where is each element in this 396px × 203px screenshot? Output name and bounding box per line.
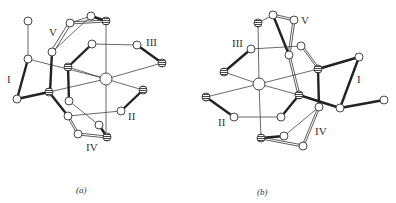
atom-open xyxy=(247,45,255,53)
atom-hatched xyxy=(220,68,228,76)
atom-open xyxy=(66,19,74,27)
label-b-IV: IV xyxy=(315,125,327,137)
atom-hatched xyxy=(139,86,147,94)
atom-open xyxy=(24,55,32,63)
central-atom xyxy=(100,73,112,85)
atom-open xyxy=(117,107,125,115)
atom-hatched xyxy=(295,91,303,99)
atom-open xyxy=(355,53,363,61)
atom-hatched xyxy=(314,65,322,73)
label-a-V: V xyxy=(49,26,57,38)
atom-open xyxy=(285,51,293,59)
atom-hatched xyxy=(102,17,110,25)
atom-open xyxy=(133,41,141,49)
atom-open xyxy=(297,42,305,50)
atom-open xyxy=(64,112,72,120)
atom-open xyxy=(88,40,96,48)
panel-a: V III I II IV (a) xyxy=(7,12,166,195)
atom-open xyxy=(336,104,344,112)
label-a-I: I xyxy=(7,73,11,85)
atom-open xyxy=(290,16,298,24)
label-b-III: III xyxy=(232,37,243,49)
label-b-I: I xyxy=(357,73,361,85)
atom-hatched xyxy=(64,63,72,71)
atom-hatched xyxy=(254,19,262,27)
atom-open xyxy=(24,17,32,25)
caption-b: (b) xyxy=(257,187,268,197)
atom-open xyxy=(315,103,323,111)
panel-b-thin-bonds xyxy=(206,15,340,138)
label-b-V: V xyxy=(301,14,309,26)
atom-open xyxy=(48,48,56,56)
atom-open xyxy=(277,113,285,121)
atom-hatched xyxy=(257,134,265,142)
atom-open xyxy=(74,130,82,138)
panel-a-double-bonds xyxy=(51,20,107,138)
central-atom xyxy=(253,78,265,90)
label-a-II: II xyxy=(128,110,136,122)
atom-open xyxy=(269,11,277,19)
atom-open xyxy=(280,132,288,140)
atom-open xyxy=(299,142,307,150)
atom-hatched xyxy=(103,133,111,141)
label-a-IV: IV xyxy=(86,141,98,153)
atom-hatched xyxy=(45,88,53,96)
atom-open xyxy=(65,97,73,105)
panel-a-atoms xyxy=(13,12,166,141)
molecular-structure-figure: V III I II IV (a) xyxy=(0,0,396,203)
atom-open xyxy=(87,12,95,20)
caption-a: (a) xyxy=(76,185,87,195)
atom-open xyxy=(380,96,388,104)
label-a-III: III xyxy=(146,36,157,48)
panel-a-thick-bonds xyxy=(17,16,162,137)
atom-hatched xyxy=(202,93,210,101)
atom-hatched xyxy=(158,59,166,67)
atom-open xyxy=(95,121,103,129)
atom-open xyxy=(230,113,238,121)
label-b-II: II xyxy=(218,116,226,128)
atom-open xyxy=(13,95,21,103)
panel-b: V III I II IV (b) xyxy=(202,11,388,197)
panel-b-double-bonds xyxy=(261,14,320,147)
